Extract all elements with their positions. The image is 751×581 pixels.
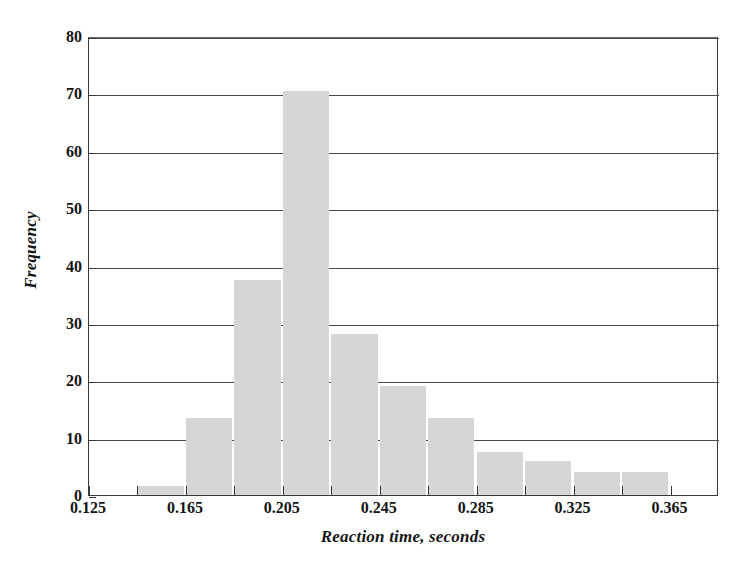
histogram-bar (137, 486, 183, 495)
x-tick-label: 0.365 (630, 500, 710, 516)
gridline (89, 38, 719, 39)
y-axis-title-label: Frequency (21, 211, 41, 288)
gridline (89, 325, 719, 326)
x-tick-label: 0.205 (242, 500, 322, 516)
gridline (89, 95, 719, 96)
x-tick-mark (525, 486, 526, 495)
y-tick-mark (89, 497, 96, 498)
histogram-bar (428, 418, 474, 495)
x-tick-label: 0.285 (436, 500, 516, 516)
y-tick-mark (89, 268, 96, 269)
histogram-bar (186, 418, 232, 495)
x-tick-label: 0.125 (48, 500, 128, 516)
plot-area (88, 37, 718, 496)
histogram-bar (380, 386, 426, 495)
y-tick-mark (89, 382, 96, 383)
y-tick-mark (89, 210, 96, 211)
y-tick-label: 70 (48, 86, 82, 102)
y-tick-label: 10 (48, 431, 82, 447)
x-tick-label: 0.245 (339, 500, 419, 516)
x-tick-mark (137, 486, 138, 495)
y-tick-mark (89, 440, 96, 441)
histogram-bar (477, 452, 523, 495)
histogram-bar (234, 280, 280, 495)
gridline (89, 153, 719, 154)
y-tick-label: 40 (48, 259, 82, 275)
histogram-bar (331, 334, 377, 495)
gridline (89, 268, 719, 269)
x-tick-mark (186, 486, 187, 495)
y-tick-label: 30 (48, 316, 82, 332)
histogram-bar (574, 472, 620, 495)
histogram-bar (622, 472, 668, 495)
y-tick-mark (89, 95, 96, 96)
x-tick-mark (380, 486, 381, 495)
x-tick-mark (574, 486, 575, 495)
histogram-bar (283, 91, 329, 495)
y-tick-mark (89, 38, 96, 39)
y-tick-label: 20 (48, 373, 82, 389)
x-tick-label: 0.325 (533, 500, 613, 516)
x-tick-label: 0.165 (145, 500, 225, 516)
y-tick-mark (89, 153, 96, 154)
x-tick-mark (622, 486, 623, 495)
y-axis-tick-labels: 01020304050607080 (46, 0, 82, 581)
x-axis-title: Reaction time, seconds (88, 527, 718, 547)
y-tick-label: 60 (48, 144, 82, 160)
gridline (89, 382, 719, 383)
y-tick-label: 50 (48, 201, 82, 217)
x-tick-mark (283, 486, 284, 495)
x-tick-mark (89, 486, 90, 495)
y-tick-mark (89, 325, 96, 326)
x-tick-mark (477, 486, 478, 495)
x-tick-mark (331, 486, 332, 495)
gridline (89, 210, 719, 211)
x-tick-mark (234, 486, 235, 495)
x-tick-mark (428, 486, 429, 495)
histogram-figure: Frequency 01020304050607080 0.1250.1650.… (0, 0, 751, 581)
y-tick-label: 80 (48, 29, 82, 45)
histogram-bar (525, 461, 571, 495)
x-tick-mark (671, 486, 672, 495)
